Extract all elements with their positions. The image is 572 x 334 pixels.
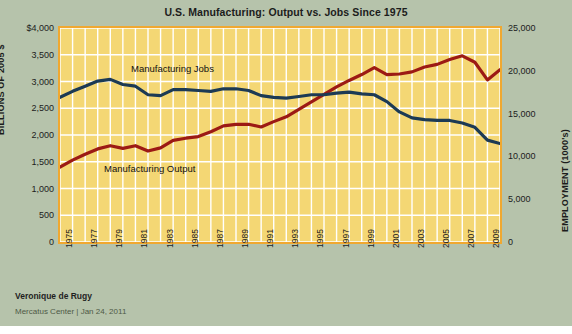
- left-axis-tick: 2,000: [0, 130, 54, 140]
- x-axis-tick: 1995: [315, 229, 325, 248]
- left-axis-tick: 0: [0, 237, 54, 247]
- x-axis-tick: 1983: [165, 229, 175, 248]
- x-axis-tick: 1977: [89, 229, 99, 248]
- source-line: Mercatus Center | Jan 24, 2011: [15, 307, 126, 316]
- x-axis-tick: 2009: [491, 229, 501, 248]
- data-lines: [60, 28, 500, 242]
- series-label-output: Manufacturing Output: [104, 163, 195, 174]
- right-axis-tick: 10,000: [508, 151, 568, 161]
- x-axis-tick: 1985: [190, 229, 200, 248]
- x-axis-tick: 1993: [290, 229, 300, 248]
- left-axis-tick: 3,000: [0, 77, 54, 87]
- plot-area: [58, 26, 502, 244]
- x-axis-tick: 2005: [441, 229, 451, 248]
- x-axis-tick: 1997: [341, 229, 351, 248]
- x-axis-tick: 1975: [64, 229, 74, 248]
- right-axis-tick: 25,000: [508, 23, 568, 33]
- x-axis-tick: 2007: [466, 229, 476, 248]
- left-axis-tick: 1,500: [0, 157, 54, 167]
- series-label-jobs: Manufacturing Jobs: [131, 63, 214, 74]
- right-axis-tick: 15,000: [508, 109, 568, 119]
- x-axis-tick: 2001: [391, 229, 401, 248]
- left-axis-tick: 1,000: [0, 184, 54, 194]
- author-byline: Veronique de Rugy: [15, 291, 92, 301]
- right-axis-tick: 0: [508, 237, 568, 247]
- right-axis-label: EMPLOYMENT (1000's): [560, 129, 570, 232]
- left-axis-tick: 2,500: [0, 103, 54, 113]
- right-axis-tick: 5,000: [508, 194, 568, 204]
- chart-card: U.S. Manufacturing: Output vs. Jobs Sinc…: [0, 0, 572, 326]
- x-axis-tick: 1991: [265, 229, 275, 248]
- x-axis-tick: 1989: [240, 229, 250, 248]
- x-axis-tick: 2003: [416, 229, 426, 248]
- right-axis-tick: 20,000: [508, 66, 568, 76]
- left-axis-tick: 500: [0, 210, 54, 220]
- left-axis-tick: $4,000: [0, 23, 54, 33]
- series-line-output: [60, 56, 500, 167]
- left-axis-tick: 3,500: [0, 50, 54, 60]
- series-line-jobs: [60, 79, 500, 143]
- x-axis-tick: 1981: [139, 229, 149, 248]
- chart-title: U.S. Manufacturing: Output vs. Jobs Sinc…: [0, 6, 572, 18]
- x-axis-tick: 1979: [114, 229, 124, 248]
- x-axis-tick: 1999: [366, 229, 376, 248]
- x-axis-tick: 1987: [215, 229, 225, 248]
